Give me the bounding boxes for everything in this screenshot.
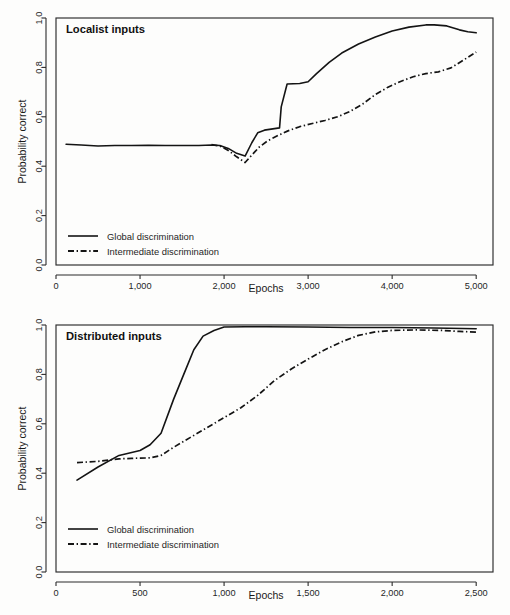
chart-panel-distributed: 0.00.20.40.60.81.0Probability correct050…: [0, 307, 510, 615]
legend-label-intermediate: Intermediate discrimination: [107, 539, 219, 550]
x-tick-label: 2,500: [465, 588, 488, 598]
x-axis-title: Epochs: [249, 282, 284, 294]
x-tick-label: 3,000: [297, 281, 320, 291]
x-tick-label: 2,000: [213, 281, 236, 291]
plot-frame: [56, 18, 493, 265]
x-tick-label: 1,000: [213, 588, 236, 598]
x-tick-label: 1,000: [129, 281, 152, 291]
x-axis-title: Epochs: [249, 589, 284, 601]
y-tick-label: 0.6: [34, 110, 44, 123]
x-tick-label: 1,500: [297, 588, 320, 598]
y-tick-label: 0.8: [34, 368, 44, 381]
y-axis-title: Probability correct: [16, 406, 28, 490]
x-tick-label: 2,000: [381, 588, 404, 598]
x-tick-label: 500: [132, 588, 147, 598]
panel-title: Localist inputs: [66, 23, 145, 35]
series-line-global: [66, 25, 476, 156]
series-line-global: [77, 327, 476, 480]
series-line-intermediate: [77, 330, 476, 463]
y-tick-label: 0.4: [34, 467, 44, 480]
localist-inputs-chart: 0.00.20.40.60.81.0Probability correct01,…: [0, 0, 510, 307]
y-axis-title: Probability correct: [16, 99, 28, 183]
panel-title: Distributed inputs: [66, 330, 162, 342]
y-tick-label: 0.8: [34, 61, 44, 74]
y-tick-label: 0.0: [34, 566, 44, 579]
distributed-inputs-chart: 0.00.20.40.60.81.0Probability correct050…: [0, 307, 510, 615]
y-tick-label: 1.0: [34, 12, 44, 25]
y-tick-label: 0.2: [34, 516, 44, 529]
x-tick-label: 5,000: [465, 281, 488, 291]
x-tick-label: 4,000: [381, 281, 404, 291]
series-line-intermediate: [211, 52, 476, 162]
y-tick-label: 0.4: [34, 160, 44, 173]
y-tick-label: 0.2: [34, 209, 44, 222]
y-tick-label: 1.0: [34, 319, 44, 332]
legend-label-global: Global discrimination: [107, 524, 194, 535]
x-tick-label: 0: [53, 281, 58, 291]
y-tick-label: 0.6: [34, 417, 44, 430]
plot-frame: [56, 325, 493, 572]
figure-container: 0.00.20.40.60.81.0Probability correct01,…: [0, 0, 510, 615]
chart-panel-localist: 0.00.20.40.60.81.0Probability correct01,…: [0, 0, 510, 307]
legend-label-intermediate: Intermediate discrimination: [107, 246, 219, 257]
y-tick-label: 0.0: [34, 259, 44, 272]
legend-label-global: Global discrimination: [107, 231, 194, 242]
x-tick-label: 0: [53, 588, 58, 598]
